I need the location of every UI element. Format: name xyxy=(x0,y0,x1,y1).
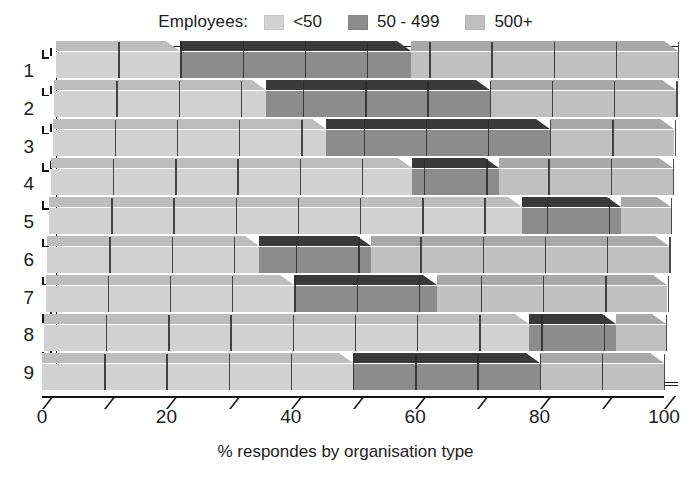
gridline xyxy=(365,81,366,117)
gridline xyxy=(668,276,669,312)
gridline xyxy=(364,120,365,156)
bar-row[interactable] xyxy=(56,52,678,82)
legend-swatch-icon xyxy=(465,15,485,30)
gridline xyxy=(417,315,418,351)
bar-row[interactable] xyxy=(47,247,669,277)
gridline xyxy=(367,42,368,78)
y-axis-tick xyxy=(42,163,44,171)
bar-segment-top-face xyxy=(522,197,622,207)
gridline xyxy=(669,237,670,273)
bar-segment[interactable] xyxy=(54,91,265,117)
gridline xyxy=(106,315,107,351)
y-axis-tick xyxy=(50,48,52,56)
x-axis-tick-label: 0 xyxy=(37,406,48,428)
legend-label: 500+ xyxy=(494,12,532,32)
bar-row[interactable] xyxy=(53,130,675,160)
gridline xyxy=(547,198,548,234)
gridline xyxy=(293,315,294,351)
gridline xyxy=(116,81,117,117)
gridline xyxy=(490,81,491,117)
gridline xyxy=(678,42,679,78)
bar-row[interactable] xyxy=(46,286,668,316)
legend-title: Employees: xyxy=(158,12,248,32)
gridline xyxy=(673,159,674,195)
bar-segment-top-face xyxy=(54,80,265,90)
bar-segment[interactable] xyxy=(180,52,410,78)
gridline xyxy=(602,354,603,390)
gridline xyxy=(239,120,240,156)
gridline xyxy=(358,237,359,273)
gridline xyxy=(607,237,608,273)
chart-legend: Employees: <50 50 - 499 500+ xyxy=(0,12,691,32)
gridline xyxy=(609,198,610,234)
gridline xyxy=(552,81,553,117)
bar-segment[interactable] xyxy=(259,247,371,273)
bar-segment[interactable] xyxy=(437,286,667,312)
bar-row[interactable] xyxy=(42,364,664,394)
bar-segment[interactable] xyxy=(522,208,622,234)
bar-segment[interactable] xyxy=(371,247,670,273)
bar-row[interactable] xyxy=(44,325,666,355)
bar-segment-top-face xyxy=(371,236,670,246)
gridline xyxy=(229,354,230,390)
bar-segment-top-face xyxy=(47,236,258,246)
y-axis-tick-label: 1 xyxy=(10,60,34,82)
gridline xyxy=(415,354,416,390)
bar-segment-top-face xyxy=(621,197,671,207)
bar-segment[interactable] xyxy=(499,169,673,195)
gridline xyxy=(298,198,299,234)
bar-row[interactable] xyxy=(49,208,671,238)
chart-container: Employees: <50 50 - 499 500+ 02040608010… xyxy=(0,0,691,479)
y-axis-tick-label: 7 xyxy=(10,287,34,309)
bar-segment[interactable] xyxy=(490,91,677,117)
bar-segment[interactable] xyxy=(266,91,490,117)
gridline xyxy=(300,159,301,195)
legend-label: 50 - 499 xyxy=(377,12,439,32)
y-axis-tick-label: 9 xyxy=(10,362,34,384)
x-axis-ticks xyxy=(42,396,678,410)
gridline xyxy=(481,276,482,312)
bar-segment[interactable] xyxy=(49,208,522,234)
bar-segment[interactable] xyxy=(616,325,666,351)
gridline xyxy=(173,198,174,234)
gridline xyxy=(491,42,492,78)
bar-segment[interactable] xyxy=(51,169,412,195)
gridline xyxy=(486,159,487,195)
bar-segment[interactable] xyxy=(411,52,678,78)
gridline xyxy=(175,159,176,195)
legend-item-500-plus[interactable]: 500+ xyxy=(465,12,532,32)
bar-segment-top-face xyxy=(490,80,677,90)
gridline xyxy=(243,42,244,78)
gridline xyxy=(616,42,617,78)
bar-segment[interactable] xyxy=(44,325,529,351)
gridline xyxy=(664,354,665,390)
gridline xyxy=(104,354,105,390)
gridline xyxy=(108,276,109,312)
bar-segment[interactable] xyxy=(353,364,540,390)
bar-segment[interactable] xyxy=(47,247,258,273)
bar-segment[interactable] xyxy=(294,286,437,312)
x-axis-tick-label: 100 xyxy=(648,406,680,428)
gridline xyxy=(548,159,549,195)
gridline xyxy=(424,159,425,195)
gridline xyxy=(422,198,423,234)
gridline xyxy=(355,315,356,351)
bar-row[interactable] xyxy=(54,91,676,121)
x-axis-tick xyxy=(104,396,116,409)
gridline xyxy=(166,354,167,390)
bar-row[interactable] xyxy=(51,169,673,199)
bar-segment[interactable] xyxy=(621,208,671,234)
legend-item-under-50[interactable]: <50 xyxy=(264,12,322,32)
legend-item-50-499[interactable]: 50 - 499 xyxy=(348,12,439,32)
bar-segment[interactable] xyxy=(53,130,327,156)
bar-segment[interactable] xyxy=(326,130,550,156)
gridline xyxy=(294,276,295,312)
y-axis-tick xyxy=(42,239,44,247)
gridline xyxy=(232,276,233,312)
y-axis-tick xyxy=(42,88,44,96)
gridline xyxy=(429,42,430,78)
gridline xyxy=(666,315,667,351)
bar-segment[interactable] xyxy=(42,364,353,390)
bar-rows xyxy=(42,56,664,396)
bar-segment-top-face xyxy=(266,80,490,90)
